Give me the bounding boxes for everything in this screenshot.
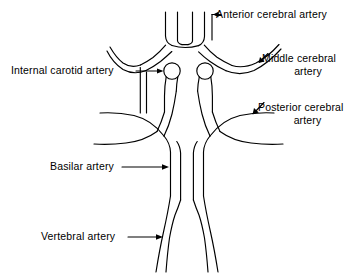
internal-carotid-artery-right — [197, 63, 213, 112]
label-basilar-artery-line1: Basilar artery — [50, 160, 114, 173]
label-middle-cerebral-artery-line1: Middle cerebral — [262, 52, 354, 65]
label-anterior-cerebral-artery-line1: Anterior cerebral artery — [216, 8, 327, 21]
label-internal-carotid-artery: Internal carotid artery — [11, 64, 114, 77]
leader-basilar — [122, 164, 169, 169]
right-a1-segment — [199, 45, 232, 71]
label-posterior-cerebral-artery: Posterior cerebral artery — [258, 101, 357, 127]
circle-of-willis-diagram: Anterior cerebral artery Middle cerebral… — [0, 0, 361, 279]
label-internal-carotid-artery-line1: Internal carotid artery — [11, 64, 114, 77]
leader-vertebral — [128, 234, 163, 239]
left-a1-segment — [141, 45, 172, 70]
label-anterior-cerebral-artery: Anterior cerebral artery — [216, 8, 327, 21]
basilar-artery — [164, 136, 210, 200]
label-posterior-cerebral-artery-line1: Posterior cerebral — [258, 101, 357, 114]
anterior-communicating-artery — [172, 45, 199, 48]
label-basilar-artery: Basilar artery — [50, 160, 114, 173]
internal-carotid-artery-left — [164, 63, 180, 112]
label-vertebral-artery: Vertebral artery — [41, 230, 115, 243]
internal-carotid-stem-left — [140, 68, 146, 114]
vertebral-artery-right — [193, 196, 218, 272]
posterior-communicating-artery-left — [157, 91, 176, 136]
label-posterior-cerebral-artery-line2: artery — [258, 114, 357, 127]
anterior-cerebral-artery-left — [166, 12, 183, 46]
label-middle-cerebral-artery: Middle cerebral artery — [262, 52, 354, 78]
label-middle-cerebral-artery-line2: artery — [262, 65, 354, 78]
label-vertebral-artery-line1: Vertebral artery — [41, 230, 115, 243]
vertebral-artery-left — [156, 196, 181, 272]
anterior-cerebral-artery-right — [188, 12, 205, 46]
posterior-cerebral-artery-left — [94, 113, 164, 145]
